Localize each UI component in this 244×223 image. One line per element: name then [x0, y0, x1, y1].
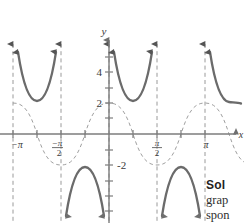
y-tick-label-4: 4	[97, 66, 103, 78]
svg-text:π: π	[203, 139, 209, 150]
x-tick-label-pi: π	[203, 139, 209, 150]
cosecant-branch-down	[162, 167, 200, 216]
cosecant-branch-up	[114, 52, 152, 101]
solution-line-2: spon	[206, 208, 244, 223]
x-tick-label-minus-pi: −π	[11, 139, 24, 150]
cosecant-branch-up-partial	[210, 52, 241, 104]
svg-text:−π: −π	[52, 138, 63, 148]
x-tick-label-pi-over-2: π 2	[152, 138, 162, 158]
svg-text:2: 2	[155, 148, 160, 158]
solution-text-block: Sol grap spon	[206, 178, 244, 223]
x-axis-label: x	[238, 129, 244, 140]
svg-text:2: 2	[57, 148, 62, 158]
solution-line-1: grap	[206, 193, 244, 208]
svg-text:−π: −π	[11, 139, 24, 150]
y-axis-label: y	[101, 25, 107, 37]
solution-heading: Sol	[206, 178, 244, 193]
cosecant-branch-down	[66, 167, 104, 216]
y-tick-label-2: 2	[97, 97, 103, 109]
cosecant-branch-up	[18, 52, 56, 101]
svg-text:π: π	[155, 138, 160, 148]
y-tick-label-minus2: -2	[117, 159, 126, 171]
